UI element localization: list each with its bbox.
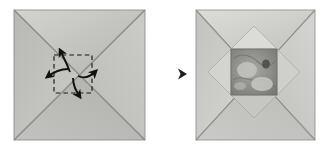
- pocket-highlight-left: [237, 62, 257, 78]
- panel-left: [14, 10, 145, 140]
- pocket-shadow-dot: [262, 60, 270, 69]
- figure-canvas: [0, 0, 325, 150]
- step-arrow: [152, 69, 187, 80]
- pocket-highlight-bottom: [251, 77, 273, 91]
- panel-right: [196, 10, 315, 140]
- center-crumpled-pocket: [231, 49, 277, 95]
- origami-figure: [0, 0, 325, 150]
- pocket-highlight-small: [234, 82, 246, 90]
